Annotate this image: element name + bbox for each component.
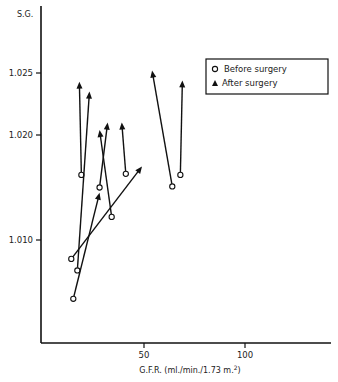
connector-line bbox=[74, 197, 99, 297]
connector-line bbox=[180, 84, 182, 172]
y-tick-1020: 1.020 bbox=[9, 130, 41, 140]
after-surgery-triangle-icon bbox=[179, 80, 185, 87]
x-tick-100: 100 bbox=[237, 343, 253, 360]
svg-text:1.025: 1.025 bbox=[9, 68, 33, 78]
after-surgery-triangle-icon bbox=[95, 193, 101, 201]
after-surgery-triangle-icon bbox=[150, 71, 156, 78]
data-pair bbox=[75, 92, 92, 273]
chart: S.G. 1.025 1.020 1.010 50 100 G.F.R. (ml… bbox=[0, 0, 338, 382]
after-surgery-triangle-icon bbox=[104, 123, 110, 130]
data-pair bbox=[178, 80, 185, 177]
data-pair bbox=[69, 167, 142, 262]
after-surgery-triangle-icon bbox=[98, 130, 104, 137]
connector-line bbox=[122, 127, 126, 172]
after-surgery-triangle-icon bbox=[77, 82, 83, 89]
data-layer bbox=[69, 71, 186, 302]
before-surgery-circle-icon bbox=[109, 214, 114, 219]
data-pair bbox=[71, 193, 101, 302]
svg-text:100: 100 bbox=[237, 350, 253, 360]
y-tick-1010: 1.010 bbox=[9, 235, 41, 245]
legend-after-label: After surgery bbox=[222, 78, 277, 88]
legend-before-label: Before surgery bbox=[224, 64, 287, 74]
svg-text:1.020: 1.020 bbox=[9, 130, 33, 140]
after-surgery-triangle-icon bbox=[119, 123, 125, 130]
data-pair bbox=[150, 71, 175, 190]
y-axis-title: S.G. bbox=[17, 10, 33, 19]
after-surgery-triangle-icon bbox=[86, 92, 92, 99]
before-surgery-circle-icon bbox=[170, 184, 175, 189]
before-surgery-circle-icon bbox=[123, 171, 128, 176]
y-tick-1025: 1.025 bbox=[9, 68, 41, 78]
connector-line bbox=[79, 86, 81, 173]
before-surgery-circle-icon bbox=[178, 172, 183, 177]
open-circle-icon bbox=[212, 66, 217, 71]
connector-line bbox=[153, 74, 172, 183]
data-pair bbox=[119, 123, 128, 177]
data-pair bbox=[77, 82, 84, 178]
svg-text:1.010: 1.010 bbox=[9, 235, 33, 245]
x-axis-title: G.F.R. (ml./min./1.73 m.2) bbox=[139, 364, 240, 375]
legend: Before surgery After surgery bbox=[206, 59, 328, 94]
before-surgery-circle-icon bbox=[69, 256, 74, 261]
svg-text:50: 50 bbox=[139, 350, 150, 360]
x-tick-50: 50 bbox=[139, 343, 150, 360]
before-surgery-circle-icon bbox=[97, 185, 102, 190]
before-surgery-circle-icon bbox=[71, 296, 76, 301]
